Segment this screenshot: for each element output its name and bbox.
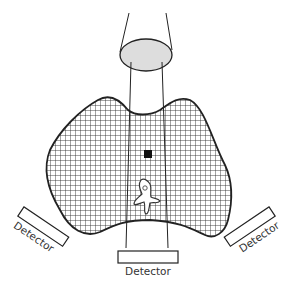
diagram-canvas: Detector Detector Detector: [0, 0, 286, 288]
detector-bottom: Detector: [118, 251, 178, 277]
detector-right: Detector: [224, 207, 283, 258]
detector-bottom-label: Detector: [125, 265, 171, 277]
lens: [120, 39, 172, 71]
detector-left: Detector: [10, 207, 69, 258]
target-marker: [144, 150, 152, 158]
